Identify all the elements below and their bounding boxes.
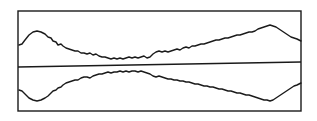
- waveform-diagram-canvas: [0, 0, 317, 121]
- lower-waveform-trace: [19, 71, 301, 101]
- upper-waveform-trace: [19, 25, 301, 59]
- diagram-frame: [18, 11, 301, 111]
- waveform-diagram: [0, 0, 317, 121]
- center-axis-line: [18, 62, 301, 67]
